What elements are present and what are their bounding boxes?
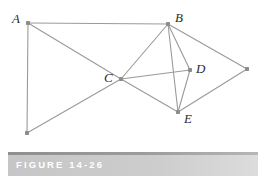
graph-vertex-d xyxy=(188,68,192,72)
figure-container: ABCDE FIGURE 14-26 xyxy=(0,0,265,183)
vertex-label-a: A xyxy=(12,12,20,25)
graph-edge-a-g xyxy=(27,23,28,133)
graph-edge-b-e xyxy=(168,24,178,112)
graph-vertex-f xyxy=(245,67,249,71)
graph-edge-c-g xyxy=(27,79,121,133)
graph-vertex-e xyxy=(176,110,180,114)
graph-edge-a-b xyxy=(28,23,168,24)
vertex-label-d: D xyxy=(196,62,205,75)
graph-edge-b-d xyxy=(168,24,190,70)
graph-vertex-b xyxy=(166,22,170,26)
vertex-label-e: E xyxy=(184,112,192,125)
graph-edge-c-b xyxy=(121,24,168,79)
graph-vertex-g xyxy=(25,131,29,135)
graph-edge-c-d xyxy=(121,70,190,79)
graph-edges xyxy=(27,23,247,133)
graph-vertex-c xyxy=(119,77,123,81)
graph-edge-b-f xyxy=(168,24,247,69)
graph-edge-c-e xyxy=(121,79,178,112)
graph-vertices xyxy=(25,21,249,135)
vertex-label-b: B xyxy=(175,11,183,24)
graph-vertex-a xyxy=(26,21,30,25)
figure-caption-bar: FIGURE 14-26 xyxy=(8,152,258,176)
vertex-label-c: C xyxy=(104,71,113,84)
figure-caption-text: FIGURE 14-26 xyxy=(16,160,104,170)
